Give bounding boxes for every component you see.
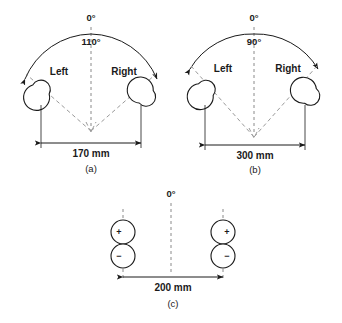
right-label-b: Right [275,63,301,74]
panel-caption-b: (b) [249,164,261,175]
figure8-lobe-negative-left-c [111,244,135,268]
panel-caption-a: (a) [85,163,97,174]
left-label-b: Left [214,63,233,74]
panel-b: 0° 90° Left Right 300 mm (b) [182,12,326,175]
included-angle-label-a: 110° [81,36,100,47]
spacing-label-a: 170 mm [72,148,109,159]
mic-capsule-left-c: + − [111,220,135,268]
mic-capsule-right-c: + − [211,220,235,268]
panel-c: 0° + − + − 200 mm (c) [111,188,235,309]
spacing-label-b: 300 mm [236,150,273,161]
polarity-positive-right-c: + [224,227,229,237]
mic-capsule-right-a [122,72,161,113]
figure8-lobe-negative-right-c [211,244,235,268]
included-angle-label-b: 90° [247,36,262,47]
cardioid-pattern-left-a [18,75,57,116]
array-diagram: 0° 110° Left Right 170 mm (a) 0° 9 [0,0,342,323]
polarity-positive-left-c: + [116,227,121,237]
figure8-lobe-positive-right-c [211,220,235,244]
polarity-negative-right-c: − [224,251,229,261]
reference-angle-label-b: 0° [249,12,258,23]
figure-container: 0° 110° Left Right 170 mm (a) 0° 9 [0,0,342,323]
mic-capsule-left-a [18,75,57,116]
spacing-label-c: 200 mm [154,282,191,293]
figure8-lobe-positive-left-c [111,220,135,244]
panel-a: 0° 110° Left Right 170 mm (a) [18,12,161,174]
reference-angle-label-c: 0° [166,188,175,199]
polarity-negative-left-c: − [116,251,121,261]
reference-angle-label-a: 0° [86,12,95,23]
left-label-a: Left [50,66,69,77]
cardioid-pattern-right-a [122,72,161,113]
right-label-a: Right [111,66,137,77]
panel-caption-c: (c) [167,298,178,309]
